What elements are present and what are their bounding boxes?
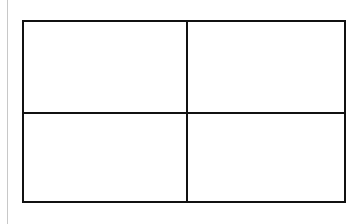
horizontal-divider [24, 112, 344, 114]
grid-cell-bottom-right [188, 114, 344, 201]
grid-cell-top-left [24, 22, 186, 112]
grid-cell-top-right [188, 22, 344, 112]
two-by-two-grid [22, 20, 346, 203]
left-edge-line [7, 0, 8, 224]
grid-cell-bottom-left [24, 114, 186, 201]
diagram-canvas [0, 0, 360, 224]
